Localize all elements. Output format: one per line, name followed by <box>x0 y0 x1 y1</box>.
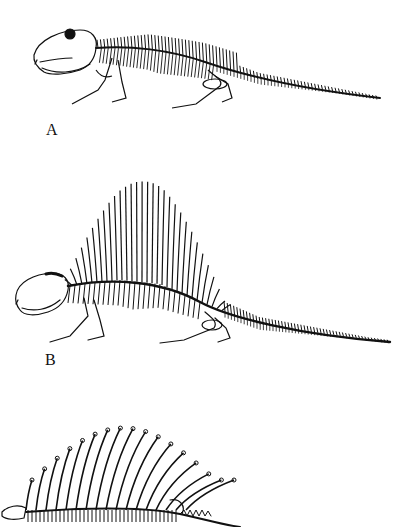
figure-c <box>0 390 405 527</box>
figure-b: B <box>0 140 405 390</box>
skeleton-c-illustration <box>0 390 405 527</box>
skull-c <box>2 506 26 519</box>
skeleton-a-illustration: /* placeholder */ <box>0 0 405 140</box>
figure-label-b: B <box>45 351 56 369</box>
skeleton-b-illustration <box>0 140 405 390</box>
figure-label-a: A <box>46 121 58 139</box>
figure-a: /* placeholder */ A <box>0 0 405 140</box>
